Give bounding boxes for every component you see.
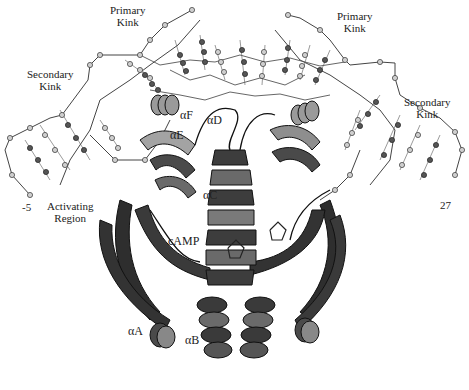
dna-bases [7,7,464,197]
ribbon-diagram [0,0,469,390]
label-alpha-a: αA [128,326,143,337]
label-primary-kink-right: Primary Kink [337,10,372,34]
label-secondary-kink-right: Secondary Kink [404,96,450,120]
label-alpha-e: αE [170,130,184,141]
label-alpha-b: αB [185,335,199,346]
label-primary-kink-left: Primary Kink [110,4,145,28]
protein-ribbons [99,95,345,358]
label-alpha-f: αF [180,110,193,121]
label-activating-region: Activating Region [47,200,93,224]
label-alpha-d: αD [207,115,222,126]
protein-dna-figure: Primary Kink Primary Kink Secondary Kink… [0,0,469,390]
label-dna-end-right: 27 [440,200,451,211]
label-dna-end-left: -5 [22,202,31,213]
label-secondary-kink-left: Secondary Kink [27,68,73,92]
label-camp: cAMP [168,236,199,247]
label-alpha-c: αC [203,190,217,201]
